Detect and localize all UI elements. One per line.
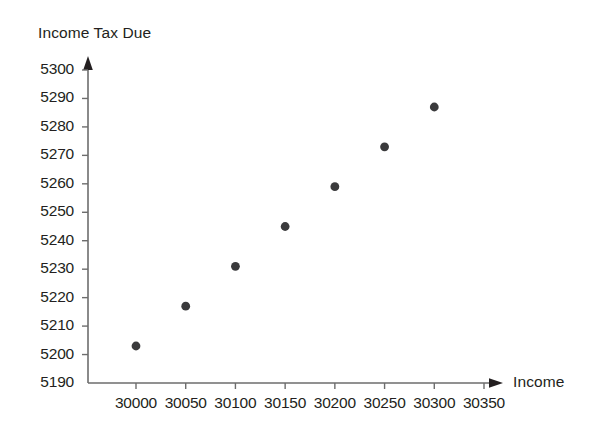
data-point xyxy=(430,103,439,112)
scatter-chart: Income Tax Due Income 519052005210522052… xyxy=(0,0,596,446)
y-tick-label: 5220 xyxy=(18,288,74,306)
y-tick-label: 5230 xyxy=(18,259,74,277)
y-axis-arrowhead xyxy=(83,56,93,70)
x-tick-label: 30350 xyxy=(451,394,517,412)
data-point-group xyxy=(132,103,439,351)
x-tick-marks xyxy=(136,383,484,389)
y-tick-label: 5280 xyxy=(18,117,74,135)
y-tick-label: 5260 xyxy=(18,174,74,192)
y-tick-label: 5210 xyxy=(18,316,74,334)
data-point xyxy=(181,302,190,311)
axis-lines xyxy=(83,56,503,388)
y-tick-marks xyxy=(82,70,88,355)
data-point xyxy=(380,142,389,151)
data-point xyxy=(330,182,339,191)
y-tick-label: 5200 xyxy=(18,345,74,363)
x-axis-arrowhead xyxy=(489,378,503,388)
y-tick-label: 5290 xyxy=(18,88,74,106)
y-tick-label: 5190 xyxy=(18,373,74,391)
plot-area xyxy=(0,0,596,446)
data-point xyxy=(132,342,141,351)
y-tick-label: 5270 xyxy=(18,145,74,163)
y-tick-label: 5250 xyxy=(18,202,74,220)
data-point xyxy=(281,222,290,231)
data-point xyxy=(231,262,240,271)
y-tick-label: 5240 xyxy=(18,231,74,249)
y-tick-label: 5300 xyxy=(18,60,74,78)
